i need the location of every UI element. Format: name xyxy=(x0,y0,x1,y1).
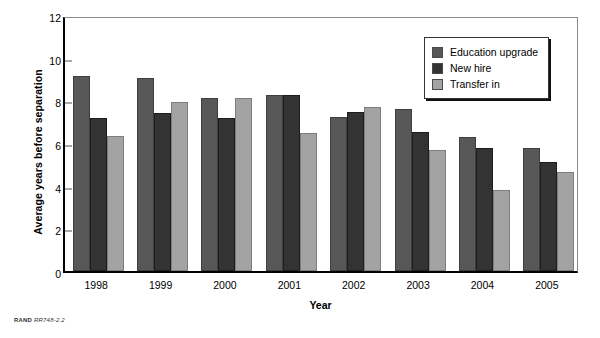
legend-item[interactable]: New hire xyxy=(432,60,538,76)
legend-label: New hire xyxy=(450,62,491,74)
chart-legend: Education upgradeNew hireTransfer in xyxy=(424,37,549,99)
bar xyxy=(218,118,235,271)
legend-item[interactable]: Transfer in xyxy=(432,76,538,92)
bar xyxy=(171,102,188,271)
bar xyxy=(330,117,347,271)
bar xyxy=(107,136,124,271)
bar xyxy=(493,190,510,271)
bar xyxy=(201,98,218,271)
footer-code: RR748-2.2 xyxy=(34,317,65,323)
bar-group xyxy=(201,18,252,271)
y-tick-label: 0 xyxy=(37,269,61,280)
legend-swatch-icon xyxy=(432,63,443,74)
bar xyxy=(395,109,412,271)
legend-label: Transfer in xyxy=(450,78,500,90)
bar xyxy=(154,113,171,271)
legend-label: Education upgrade xyxy=(450,46,538,58)
bar-group xyxy=(137,18,188,271)
bar-group xyxy=(73,18,124,271)
bar xyxy=(540,162,557,271)
y-tick-label: 12 xyxy=(37,13,61,24)
figure-footer: RAND RR748-2.2 xyxy=(14,317,65,323)
bar xyxy=(283,95,300,271)
y-tick-label: 6 xyxy=(37,141,61,152)
bar xyxy=(90,118,107,271)
bar xyxy=(459,137,476,271)
bar xyxy=(137,78,154,271)
y-tick-label: 2 xyxy=(37,226,61,237)
bar xyxy=(523,148,540,271)
bar xyxy=(235,98,252,271)
bar xyxy=(557,172,574,271)
bar-group xyxy=(330,18,381,271)
bar xyxy=(347,112,364,271)
legend-swatch-icon xyxy=(432,47,443,58)
y-tick-label: 10 xyxy=(37,55,61,66)
bar xyxy=(429,150,446,271)
bar xyxy=(300,133,317,271)
bar xyxy=(412,132,429,271)
x-axis-title: Year xyxy=(63,299,578,311)
x-tick-label: 2005 xyxy=(507,279,587,291)
chart-figure: Average years before separation 02468101… xyxy=(0,0,600,338)
bar xyxy=(364,107,381,271)
bar-group xyxy=(266,18,317,271)
bar xyxy=(73,76,90,271)
footer-source: RAND xyxy=(14,317,32,323)
legend-item[interactable]: Education upgrade xyxy=(432,44,538,60)
y-tick-label: 4 xyxy=(37,183,61,194)
y-tick-label: 8 xyxy=(37,98,61,109)
bar xyxy=(266,95,283,271)
legend-swatch-icon xyxy=(432,79,443,90)
bar xyxy=(476,148,493,271)
